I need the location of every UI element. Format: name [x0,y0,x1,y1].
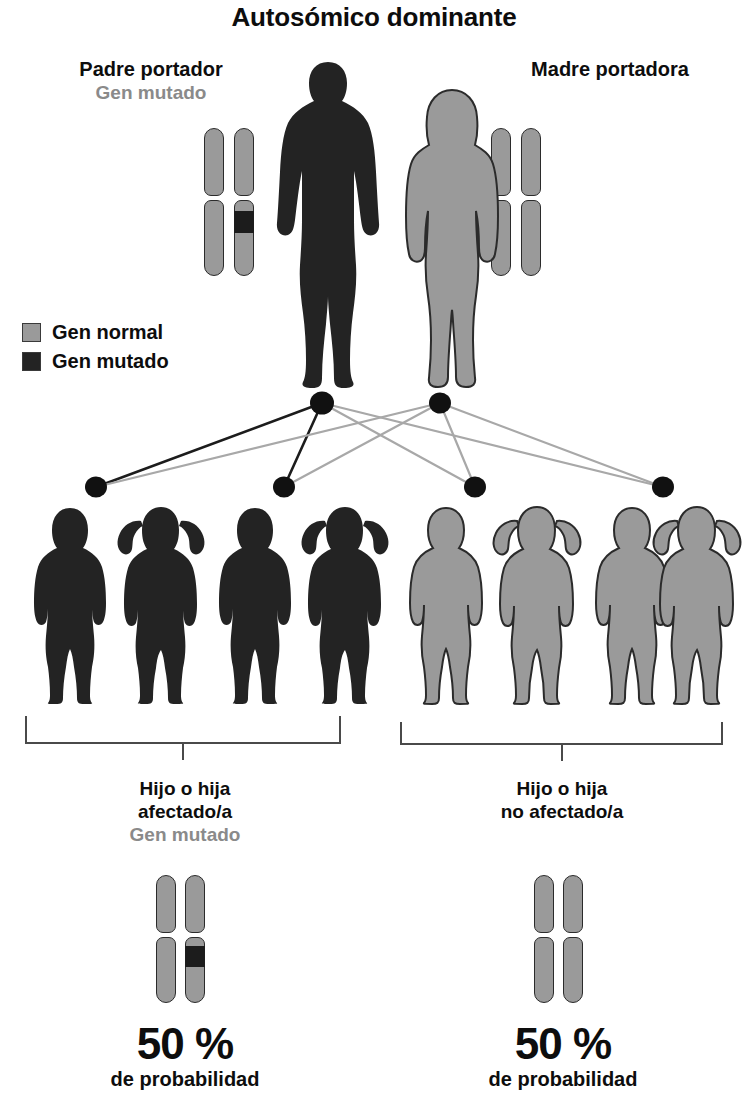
bracket-affected [25,716,341,760]
child-silhouette-unaffected-female-1 [488,503,586,705]
outcome-unaffected-line1: Hijo o hija [437,778,687,801]
affected-chromosome-mutated [185,875,205,1003]
outcome-affected-label: Hijo o hija afectado/a Gen mutado [60,778,310,846]
father-chromosome-mutated [234,128,254,276]
affected-chromosome-normal [156,875,176,1003]
probability-affected: 50 % de probabilidad [60,1022,310,1091]
chromosome-arm-lower [563,937,583,1003]
legend-item-mutated: Gen mutado [22,347,169,376]
chromosome-arm-upper [534,875,554,933]
mother-label-block: Madre portadora [490,58,730,82]
mother-silhouette [402,88,502,390]
father-label-block: Padre portador Gen mutado [36,58,266,104]
chromosome-arm-upper [521,128,541,196]
chromosome-arm-lower [521,200,541,276]
father-chromosome-normal [204,128,224,276]
inheritance-line-network [0,380,748,505]
affected-child-chromosome-pair [156,875,214,1003]
mother-label: Madre portadora [490,58,730,82]
unaffected-chromosome-normal-1 [534,875,554,1003]
legend-item-normal: Gen normal [22,318,169,347]
child-silhouette-affected-female-2 [296,503,394,705]
bracket-unaffected [400,722,723,766]
outcome-unaffected-label: Hijo o hija no afectado/a [437,778,687,824]
page-title: Autosómico dominante [0,2,748,33]
child-silhouette-unaffected-female-2 [648,503,746,705]
chromosome-arm-upper [185,875,205,933]
gene-normal-swatch-icon [22,323,41,342]
legend-label-normal: Gen normal [52,321,163,344]
chromosome-arm-upper [156,875,176,933]
mutated-gene-band [234,211,254,233]
child-silhouette-unaffected-male-1 [404,505,488,705]
probability-affected-caption: de probabilidad [60,1068,310,1091]
unaffected-chromosome-normal-2 [563,875,583,1003]
child-silhouette-affected-female-1 [112,503,210,705]
chromosome-arm-upper [563,875,583,933]
mutated-gene-band [185,946,205,967]
outcome-affected-line2: afectado/a [60,801,310,824]
probability-affected-percent: 50 % [60,1022,310,1067]
father-label: Padre portador [36,58,266,82]
father-sublabel: Gen mutado [36,82,266,104]
outcome-affected-gene-note: Gen mutado [60,824,310,847]
outcome-unaffected-line2: no afectado/a [437,801,687,824]
legend-label-mutated: Gen mutado [52,350,169,373]
mother-chromosome-normal-2 [521,128,541,276]
probability-unaffected: 50 % de probabilidad [438,1022,688,1091]
chromosome-arm-lower [156,937,176,1003]
chromosome-arm-upper [234,128,254,196]
legend: Gen normal Gen mutado [22,318,169,376]
child-silhouette-affected-male-1 [28,505,112,705]
outcome-affected-line1: Hijo o hija [60,778,310,801]
unaffected-child-chromosome-pair [534,875,592,1003]
father-chromosome-pair [204,128,262,276]
child-silhouette-affected-male-2 [213,505,297,705]
chromosome-arm-lower [204,200,224,276]
chromosome-arm-lower [534,937,554,1003]
probability-unaffected-percent: 50 % [438,1022,688,1067]
gene-mutated-swatch-icon [22,352,41,371]
father-silhouette [272,60,384,390]
probability-unaffected-caption: de probabilidad [438,1068,688,1091]
chromosome-arm-upper [204,128,224,196]
